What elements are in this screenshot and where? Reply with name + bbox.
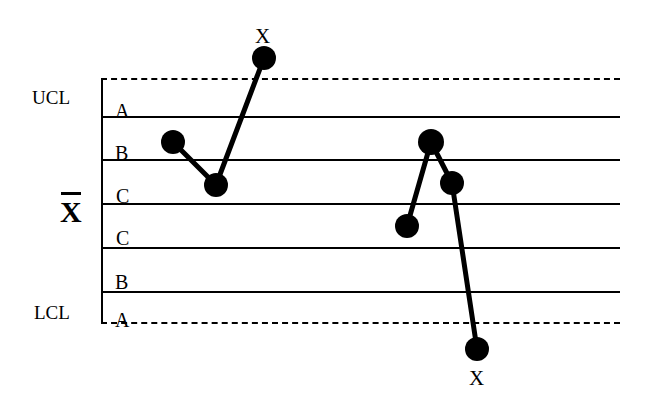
- data-point: [204, 173, 228, 197]
- data-point-out-of-control-high: [252, 46, 276, 70]
- data-series-layer: [0, 0, 651, 402]
- data-point: [418, 129, 444, 155]
- lcl-line: [101, 322, 620, 324]
- zone-c-upper-boundary-line: [101, 203, 620, 205]
- ucl-line: [101, 78, 620, 80]
- series-run-1: [161, 46, 276, 197]
- zone-b-lower-boundary-line: [101, 291, 620, 293]
- series-run-2: [395, 129, 489, 361]
- zone-label-c-upper: C: [116, 186, 129, 206]
- zone-label-c-lower: C: [116, 228, 129, 248]
- xbar-glyph: X: [60, 197, 82, 227]
- data-point: [395, 214, 419, 238]
- data-point: [440, 171, 464, 195]
- zone-c-lower-boundary-line: [101, 247, 620, 249]
- annotation-x-above-ucl: X: [255, 26, 270, 47]
- control-chart: UCL LCL X A B C C B A X X: [0, 0, 651, 402]
- series-run-2-line: [407, 142, 477, 349]
- data-point-out-of-control-low: [465, 337, 489, 361]
- y-axis-spine: [101, 78, 103, 324]
- zone-a-upper-boundary-line: [101, 116, 620, 118]
- ucl-label: UCL: [32, 88, 70, 107]
- zone-label-b-upper: B: [115, 143, 128, 163]
- center-line-xbar-symbol: X: [60, 192, 82, 227]
- data-point: [161, 130, 185, 154]
- zone-label-b-lower: B: [115, 272, 128, 292]
- zone-b-upper-boundary-line: [101, 159, 620, 161]
- zone-label-a-lower: A: [115, 310, 129, 330]
- lcl-label: LCL: [34, 303, 70, 322]
- annotation-x-below-lcl: X: [469, 368, 484, 389]
- zone-label-a-upper: A: [115, 101, 129, 121]
